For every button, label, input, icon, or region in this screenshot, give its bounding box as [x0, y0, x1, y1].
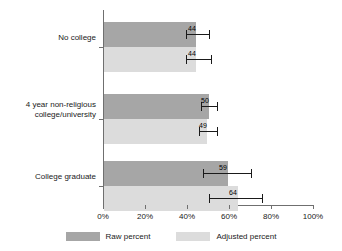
- legend-swatch-raw-percent: [66, 232, 100, 241]
- errorbar-cap-high: [217, 127, 218, 136]
- legend-swatch-adjusted-percent: [176, 232, 210, 241]
- bar-raw-no-college: [104, 22, 196, 47]
- value-label-adjusted-college-graduate: 64: [229, 189, 237, 196]
- value-label-adjusted-4-year-non-religious-college: 49: [199, 122, 207, 129]
- errorbar-adjusted-college-graduate: [209, 198, 262, 199]
- errorbar-cap-high: [262, 194, 263, 203]
- value-label-adjusted-no-college: 44: [188, 50, 196, 57]
- errorbar-raw-no-college: [186, 34, 209, 35]
- legend-label-raw-percent: Raw percent: [106, 232, 151, 241]
- x-axis-tick-label: 60%: [209, 212, 249, 221]
- y-axis-tick: [99, 47, 103, 48]
- x-axis-tick-label: 80%: [251, 212, 291, 221]
- errorbar-cap-low: [186, 55, 187, 64]
- value-label-raw-4-year-non-religious-college: 50: [201, 97, 209, 104]
- errorbar-cap-high: [211, 55, 212, 64]
- x-axis-tick: [145, 205, 146, 209]
- y-axis-label-4-year-non-religious-college: 4 year non-religious college/university: [0, 100, 96, 119]
- x-axis-tick: [187, 205, 188, 209]
- errorbar-cap-high: [217, 102, 218, 111]
- bar-chart: No college 4 year non-religious college/…: [0, 0, 342, 251]
- plot-area: 44 44 50 49: [103, 10, 313, 205]
- chart-legend: Raw percent Adjusted percent: [0, 228, 342, 244]
- legend-entry-raw-percent: Raw percent: [66, 232, 151, 241]
- errorbar-raw-college-graduate: [203, 173, 251, 174]
- x-axis-tick-label: 100%: [293, 212, 333, 221]
- x-axis-tick: [313, 205, 314, 209]
- value-label-raw-college-graduate: 59: [219, 164, 227, 171]
- errorbar-adjusted-no-college: [186, 59, 211, 60]
- errorbar-adjusted-4-year-non-religious-college: [199, 131, 218, 132]
- bar-adjusted-4-year-non-religious-college: [104, 119, 207, 144]
- errorbar-cap-low: [209, 194, 210, 203]
- legend-label-adjusted-percent: Adjusted percent: [216, 232, 276, 241]
- errorbar-cap-high: [251, 169, 252, 178]
- x-axis-tick-label: 40%: [167, 212, 207, 221]
- errorbar-raw-4-year-non-religious-college: [201, 106, 218, 107]
- y-axis-tick: [99, 119, 103, 120]
- y-axis-tick: [99, 186, 103, 187]
- y-axis-label-college-graduate: College graduate: [0, 172, 96, 182]
- bar-adjusted-no-college: [104, 47, 196, 72]
- x-axis-tick: [103, 205, 104, 209]
- legend-entry-adjusted-percent: Adjusted percent: [176, 232, 276, 241]
- x-axis-tick: [229, 205, 230, 209]
- errorbar-cap-low: [203, 169, 204, 178]
- y-axis-label-no-college: No college: [0, 33, 96, 43]
- errorbar-cap-low: [186, 30, 187, 39]
- x-axis-tick-label: 20%: [125, 212, 165, 221]
- value-label-raw-no-college: 44: [188, 25, 196, 32]
- x-axis-tick-label: 0%: [83, 212, 123, 221]
- errorbar-cap-high: [209, 30, 210, 39]
- x-axis-tick: [271, 205, 272, 209]
- bar-raw-4-year-non-religious-college: [104, 94, 209, 119]
